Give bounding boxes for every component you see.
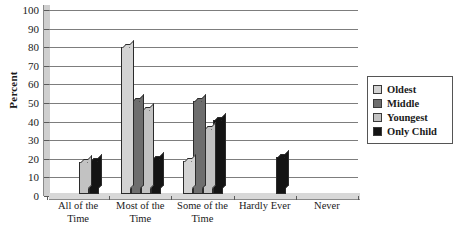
y-tick-label: 100 [23, 5, 40, 16]
bar-side-face [140, 94, 144, 189]
legend-label: Only Child [387, 126, 437, 137]
legend-label: Oldest [387, 84, 416, 95]
legend-swatch-icon [373, 85, 382, 94]
legend-swatch-icon [373, 99, 382, 108]
y-tick-label: 50 [28, 98, 39, 109]
legend-item-middle: Middle [373, 96, 448, 110]
legend-item-only-child: Only Child [373, 124, 448, 138]
x-tick-mark [47, 196, 48, 200]
bar-group [298, 10, 360, 194]
plot-area [47, 10, 358, 196]
y-tick-label: 30 [28, 135, 39, 146]
y-tick-label: 80 [28, 42, 39, 53]
bar [79, 162, 89, 194]
x-tick-label: Some of theTime [171, 200, 233, 225]
x-tick-label: Never [296, 200, 358, 213]
y-axis-tick-labels: 0102030405060708090100 [0, 0, 46, 235]
y-tick-label: 70 [28, 61, 39, 72]
bar-side-face [192, 154, 196, 189]
bar [183, 161, 193, 194]
bar-side-face [150, 103, 154, 189]
bar [276, 157, 286, 194]
bar-side-face [285, 150, 289, 189]
bar-chart: Percent 0102030405060708090100 All of th… [0, 0, 460, 235]
y-tick-label: 20 [28, 154, 39, 165]
x-tick-mark [171, 196, 172, 200]
y-tick-label: 0 [34, 191, 40, 202]
bar-group [173, 10, 235, 194]
x-tick-mark [358, 196, 359, 200]
legend-label: Youngest [387, 112, 428, 123]
bar-side-face [160, 152, 164, 189]
x-tick-mark [109, 196, 110, 200]
bar-side-face [202, 94, 206, 189]
bar-group [111, 10, 173, 194]
legend-swatch-icon [373, 113, 382, 122]
x-tick-label: All of the Time [47, 200, 109, 225]
legend-swatch-icon [373, 127, 382, 136]
bar [121, 47, 131, 194]
bar-side-face [88, 155, 92, 189]
x-tick-mark [234, 196, 235, 200]
x-tick-label: Hardly Ever [234, 200, 296, 213]
bar-group [49, 10, 111, 194]
x-tick-mark [296, 196, 297, 200]
bar-series-layer [49, 10, 358, 194]
y-tick-label: 10 [28, 172, 39, 183]
bar-side-face [98, 154, 102, 189]
bar-group [236, 10, 298, 194]
y-tick-label: 60 [28, 79, 39, 90]
x-axis-spine [49, 193, 360, 200]
x-axis-tick-labels: All of the TimeMost of theTimeSome of th… [47, 200, 358, 234]
y-tick-label: 90 [28, 24, 39, 35]
chart-legend: OldestMiddleYoungestOnly Child [367, 76, 453, 144]
bar-side-face [130, 40, 134, 189]
bar-side-face [212, 122, 216, 189]
y-tick-label: 40 [28, 117, 39, 128]
bar-side-face [222, 113, 226, 189]
legend-item-oldest: Oldest [373, 82, 448, 96]
legend-label: Middle [387, 98, 419, 109]
legend-item-youngest: Youngest [373, 110, 448, 124]
x-tick-label: Most of theTime [109, 200, 171, 225]
